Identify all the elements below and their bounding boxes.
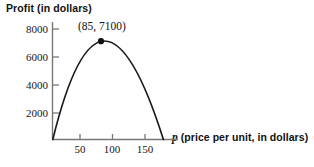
profit-curve	[53, 41, 164, 140]
profit-parabola-chart: Profit (in dollars) p (price per unit, i…	[0, 0, 314, 167]
vertex-point-marker	[98, 38, 104, 44]
chart-plot-area	[0, 0, 314, 167]
